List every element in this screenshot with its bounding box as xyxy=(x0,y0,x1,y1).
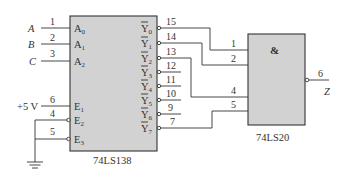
signal-label-a: A xyxy=(27,23,35,34)
pin-number-a: 1 xyxy=(50,16,55,27)
inversion-bubble-y1 xyxy=(157,41,160,44)
pin-number-y3: 12 xyxy=(166,60,176,71)
decoder-chip-label: 74LS138 xyxy=(93,155,132,166)
gate-output-pin: 6 xyxy=(318,68,323,79)
pin-number-e2: 4 xyxy=(50,108,55,119)
circuit-diagram: A 1 A0 B 2 A1 C 3 A2 +5 V 6 E1 4 E xyxy=(0,0,345,181)
pin-number-y2: 13 xyxy=(166,46,176,57)
pin-number-y5: 10 xyxy=(166,88,176,99)
inversion-bubble-e2 xyxy=(67,118,70,121)
and-symbol: & xyxy=(270,44,279,56)
inversion-bubble-y4 xyxy=(157,84,160,87)
ground-symbol xyxy=(27,120,43,168)
pin-number-y6: 9 xyxy=(168,102,173,113)
pin-number-y4: 11 xyxy=(166,74,176,85)
gate-pin-2: 2 xyxy=(231,53,236,64)
signal-label-c: C xyxy=(29,56,37,67)
decoder-74ls138: A 1 A0 B 2 A1 C 3 A2 +5 V 6 E1 4 E xyxy=(17,16,181,168)
signal-label-b: B xyxy=(28,39,35,50)
pin-number-y1: 14 xyxy=(166,31,176,42)
inversion-bubble-y7 xyxy=(157,126,160,129)
pin-number-e1: 6 xyxy=(50,94,55,105)
inversion-bubble-y6 xyxy=(157,112,160,115)
gate-pin-4: 4 xyxy=(231,85,236,96)
pin-number-y0: 15 xyxy=(166,16,176,27)
inversion-bubble-y2 xyxy=(157,56,160,59)
pin-number-b: 2 xyxy=(50,32,55,43)
output-inversion-bubble xyxy=(305,78,309,82)
gate-chip-label: 74LS20 xyxy=(256,132,289,143)
inversion-bubble-y0 xyxy=(157,26,160,29)
inversion-bubble-y3 xyxy=(157,70,160,73)
pin-number-e3: 5 xyxy=(50,126,55,137)
gate-pin-5: 5 xyxy=(231,99,236,110)
inversion-bubble-y5 xyxy=(157,98,160,101)
supply-label: +5 V xyxy=(17,101,39,112)
output-signal-z: Z xyxy=(324,86,330,97)
pin-number-c: 3 xyxy=(50,48,55,59)
inversion-bubble-e3 xyxy=(67,137,70,140)
pin-number-y7: 7 xyxy=(170,116,175,127)
gate-pin-1: 1 xyxy=(231,38,236,49)
